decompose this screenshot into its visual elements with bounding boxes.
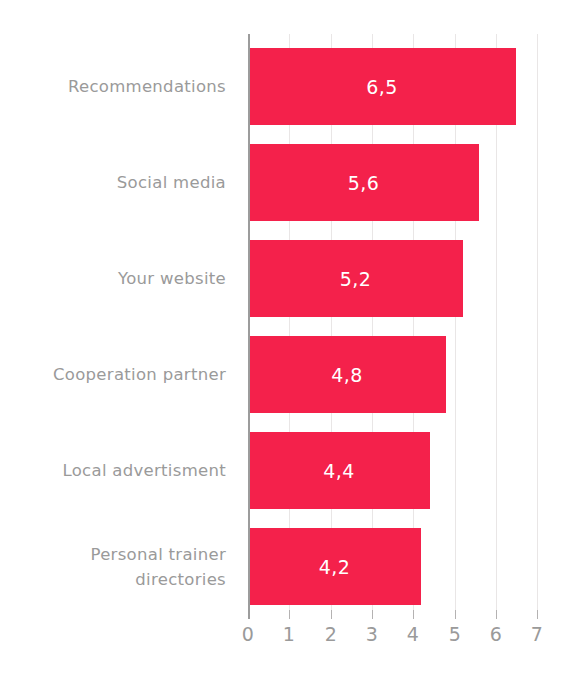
plot-area: 6,5 5,6 5,2 4,8 4,4 4,2 (248, 34, 537, 610)
x-tick-label-2: 2 (316, 623, 346, 645)
category-label-cooperation-partner: Cooperation partner (20, 362, 248, 387)
bar-chart: 6,5 5,6 5,2 4,8 4,4 4,2 Recommendations … (0, 0, 567, 682)
x-tick-2 (331, 610, 332, 619)
category-label-recommendations: Recommendations (20, 74, 248, 99)
x-tick-label-7: 7 (522, 623, 552, 645)
bar-value-label: 4,8 (248, 364, 446, 386)
category-label-local-advertisment: Local advertisment (20, 458, 248, 483)
category-label-social-media: Social media (20, 170, 248, 195)
bar-value-label: 4,4 (248, 460, 430, 482)
category-label-your-website: Your website (20, 266, 248, 291)
x-tick-5 (455, 610, 456, 619)
x-tick-7 (537, 610, 538, 619)
x-tick-label-4: 4 (398, 623, 428, 645)
y-axis-line (248, 34, 250, 610)
x-tick-3 (372, 610, 373, 619)
x-tick-label-3: 3 (357, 623, 387, 645)
gridline-7 (537, 34, 538, 610)
x-tick-1 (289, 610, 290, 619)
bar-value-label: 5,2 (248, 268, 463, 290)
bar-value-label: 6,5 (248, 76, 516, 98)
category-axis: Recommendations Social media Your websit… (0, 34, 248, 610)
x-tick-label-6: 6 (481, 623, 511, 645)
x-tick-6 (496, 610, 497, 619)
x-tick-4 (413, 610, 414, 619)
x-tick-label-0: 0 (233, 623, 263, 645)
bar-value-label: 4,2 (248, 556, 421, 578)
category-label-personal-trainer-directories: Personal trainer directories (20, 542, 248, 592)
x-tick-0 (248, 610, 250, 619)
x-tick-label-1: 1 (274, 623, 304, 645)
bar-value-label: 5,6 (248, 172, 479, 194)
x-tick-label-5: 5 (440, 623, 470, 645)
